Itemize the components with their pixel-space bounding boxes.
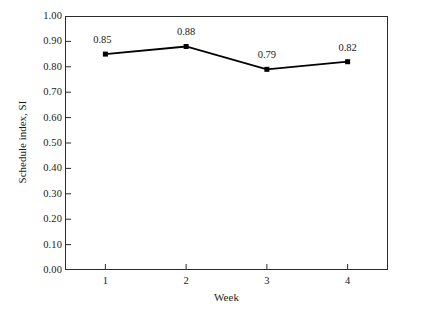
data-point-label: 0.82 bbox=[328, 42, 368, 54]
data-point-label: 0.79 bbox=[247, 49, 287, 61]
data-point-label: 0.85 bbox=[82, 34, 122, 46]
data-point-label: 0.88 bbox=[166, 26, 206, 38]
chart-figure: 0.000.100.200.300.400.500.600.700.800.90… bbox=[0, 0, 425, 316]
x-axis-tick-label: 2 bbox=[174, 275, 198, 287]
x-axis-tick-label: 3 bbox=[255, 275, 279, 287]
y-axis-title: Schedule index, SI bbox=[16, 52, 28, 232]
x-axis-tick-label: 4 bbox=[336, 275, 360, 287]
x-axis-tick-label: 1 bbox=[93, 275, 117, 287]
x-axis-title: Week bbox=[65, 291, 388, 303]
